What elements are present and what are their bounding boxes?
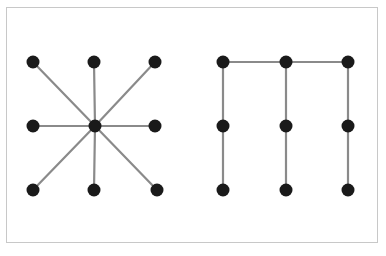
graph-diagram-svg bbox=[0, 0, 386, 256]
graph-node-bottom-right bbox=[342, 184, 355, 197]
graph-node-center-hub bbox=[89, 120, 102, 133]
graph-node-bottom-left bbox=[217, 184, 230, 197]
graph-node-top-right bbox=[342, 56, 355, 69]
graph-node-top-left bbox=[27, 56, 40, 69]
graph-node-top-center bbox=[88, 56, 101, 69]
graph-node-bottom-center bbox=[88, 184, 101, 197]
graph-edge bbox=[33, 62, 95, 126]
graph-node-middle-right bbox=[342, 120, 355, 133]
graph-node-bottom-left bbox=[27, 184, 40, 197]
graph-node-bottom-right bbox=[151, 184, 164, 197]
graph-node-top-left bbox=[217, 56, 230, 69]
graph-edge bbox=[94, 126, 95, 190]
graph-node-middle-center bbox=[280, 120, 293, 133]
graph-edge bbox=[33, 126, 95, 190]
graph-node-middle-right bbox=[149, 120, 162, 133]
graph-edge bbox=[95, 62, 155, 126]
graph-node-top-right bbox=[149, 56, 162, 69]
figure-canvas bbox=[0, 0, 386, 256]
graph-node-top-center bbox=[280, 56, 293, 69]
graph-node-bottom-center bbox=[280, 184, 293, 197]
graph-node-middle-left bbox=[27, 120, 40, 133]
edges-layer bbox=[33, 62, 348, 190]
graph-edge bbox=[95, 126, 157, 190]
graph-edge bbox=[94, 62, 95, 126]
graph-node-middle-left bbox=[217, 120, 230, 133]
